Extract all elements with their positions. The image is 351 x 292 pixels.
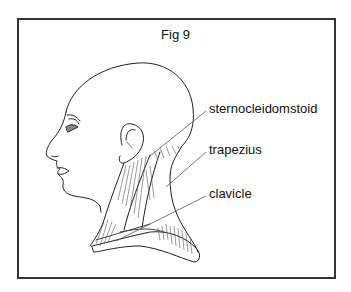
head-outline [66, 63, 193, 146]
leader-line-trapezius [166, 152, 206, 187]
label-trapezius: trapezius [209, 142, 262, 157]
eye [66, 125, 78, 132]
label-clavicle: clavicle [209, 186, 252, 201]
head-neck-illustration [0, 0, 351, 292]
label-sternocleidomstoid: sternocleidomstoid [209, 101, 317, 116]
trapezius-edge [170, 146, 198, 252]
leader-line-clavicle [116, 196, 206, 241]
leader-line-sternocleidomstoid [150, 111, 206, 156]
